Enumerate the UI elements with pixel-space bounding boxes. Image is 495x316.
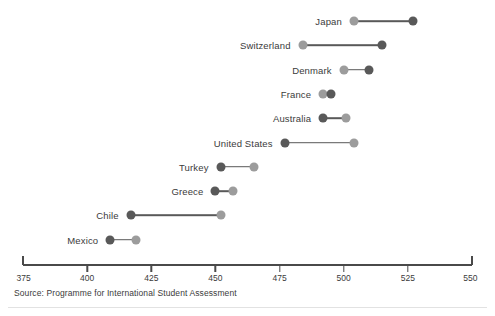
chart-row: Turkey [0, 155, 495, 179]
axis-tick-label-475: 475 [272, 273, 286, 283]
row-label-chile: Chile [96, 210, 118, 221]
axis-tick-label-425: 425 [144, 273, 158, 283]
data-point-light [229, 187, 238, 196]
row-label-turkey: Turkey [179, 161, 209, 172]
data-point-light [216, 211, 225, 220]
bottom-divider [8, 307, 487, 308]
data-point-dark [280, 138, 289, 147]
data-point-dark [126, 211, 135, 220]
chart-row: United States [0, 131, 495, 155]
axis-tick-label-500: 500 [337, 273, 351, 283]
row-label-united-states: United States [214, 137, 273, 148]
data-point-dark [211, 187, 220, 196]
data-point-light [298, 41, 307, 50]
axis-tick [407, 264, 408, 272]
row-label-japan: Japan [315, 16, 342, 27]
chart-row: Chile [0, 203, 495, 227]
data-point-dark [326, 89, 335, 98]
chart-row: Denmark [0, 58, 495, 82]
chart-row: France [0, 82, 495, 106]
row-label-switzerland: Switzerland [240, 40, 291, 51]
data-point-light [349, 17, 358, 26]
data-point-light [339, 65, 348, 74]
axis-tick [215, 264, 216, 272]
row-label-australia: Australia [273, 113, 311, 124]
data-point-light [342, 114, 351, 123]
row-label-mexico: Mexico [67, 234, 98, 245]
axis-cap-left [22, 256, 24, 265]
axis-line [23, 264, 472, 266]
data-point-dark [319, 114, 328, 123]
data-point-light [131, 235, 140, 244]
data-point-light [249, 162, 258, 171]
connector-line [354, 20, 413, 22]
chart-row: Greece [0, 179, 495, 203]
chart-row: Australia [0, 106, 495, 130]
connector-line [303, 45, 383, 47]
axis-tick-label-450: 450 [208, 273, 222, 283]
axis-tick-label-375: 375 [17, 273, 31, 283]
data-point-light [349, 138, 358, 147]
chart-row: Switzerland [0, 33, 495, 57]
axis-tick [279, 264, 280, 272]
row-label-denmark: Denmark [292, 64, 332, 75]
axis-tick-label-525: 525 [401, 273, 415, 283]
data-point-dark [106, 235, 115, 244]
data-point-dark [216, 162, 225, 171]
source-note: Source: Programme for International Stud… [14, 288, 237, 298]
dumbbell-chart: JapanSwitzerlandDenmarkFranceAustraliaUn… [0, 0, 495, 316]
axis-tick-label-550: 550 [463, 273, 477, 283]
chart-row: Mexico [0, 228, 495, 252]
connector-line [285, 142, 354, 144]
row-label-france: France [281, 88, 311, 99]
data-point-dark [408, 17, 417, 26]
axis-tick [343, 264, 344, 272]
axis-tick [86, 264, 87, 272]
row-label-greece: Greece [171, 186, 203, 197]
plot-area: JapanSwitzerlandDenmarkFranceAustraliaUn… [0, 0, 495, 256]
axis-tick-label-400: 400 [80, 273, 94, 283]
connector-line [131, 215, 221, 217]
data-point-dark [378, 41, 387, 50]
axis-tick [151, 264, 152, 272]
axis-cap-right [471, 256, 473, 265]
data-point-dark [365, 65, 374, 74]
chart-row: Japan [0, 9, 495, 33]
